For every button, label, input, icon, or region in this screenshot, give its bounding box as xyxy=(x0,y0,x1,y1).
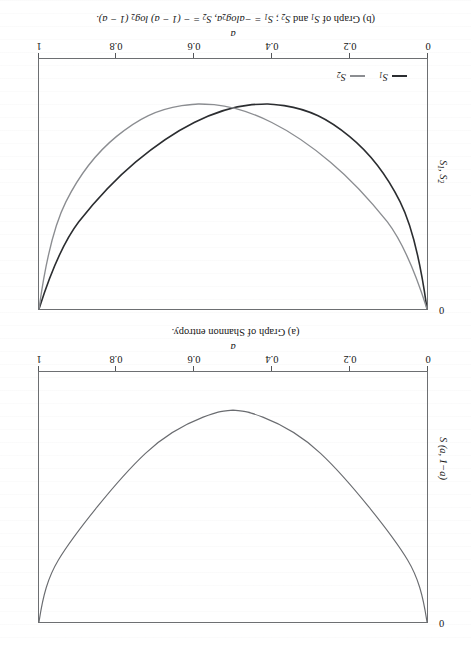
x-tick-a-4 xyxy=(115,366,116,371)
x-tick-b-0 xyxy=(427,53,428,58)
legend-label-s1: S1 xyxy=(379,69,388,83)
entropy-curve-svg xyxy=(39,372,427,622)
x-tick-label-b-4: 0.8 xyxy=(109,40,122,52)
scanned-page: 0 S (a, 1−a) 0 0.2 0.4 0.6 0.8 1 a (a) G… xyxy=(0,0,471,647)
y-axis-title-b: S1, S2 xyxy=(436,160,449,183)
x-tick-label-b-2: 0.4 xyxy=(265,40,278,52)
x-tick-a-1 xyxy=(349,366,350,371)
x-axis-title-b: a xyxy=(38,29,428,40)
x-tick-label-b-0: 0 xyxy=(425,40,430,52)
x-axis-title-a: a xyxy=(38,342,428,353)
x-tick-label-a-1: 0.2 xyxy=(343,353,356,365)
y-zero-label-b: 0 xyxy=(439,305,444,316)
x-tick-label-a-5: 1 xyxy=(36,353,41,365)
x-tick-b-1 xyxy=(349,53,350,58)
figure-s1-s2: S1 S2 0 S1, S2 0 0.2 0.4 0.6 0.8 xyxy=(0,10,471,310)
plot-frame-a xyxy=(38,371,428,623)
curve-s1 xyxy=(39,104,427,309)
x-tick-b-3 xyxy=(193,53,194,58)
x-tick-a-2 xyxy=(271,366,272,371)
x-tick-a-3 xyxy=(193,366,194,371)
figure-caption-a-text: Graph of Shannon entropy. xyxy=(172,327,286,338)
x-tick-label-a-3: 0.6 xyxy=(187,353,200,365)
x-tick-b-2 xyxy=(271,53,272,58)
curve-shannon-entropy xyxy=(39,410,427,622)
plot-frame-b: S1 S2 xyxy=(38,58,428,310)
x-tick-a-5 xyxy=(38,366,39,371)
x-tick-a-0 xyxy=(427,366,428,371)
x-tick-label-a-0: 0 xyxy=(425,353,430,365)
figure-shannon-entropy: 0 S (a, 1−a) 0 0.2 0.4 0.6 0.8 1 a (a) G… xyxy=(0,323,471,623)
x-tick-label-b-3: 0.6 xyxy=(187,40,200,52)
figure-caption-b-text: Graph of S1 and S2 ; S1 = −alog2a, S2 = … xyxy=(96,14,360,25)
x-tick-label-b-5: 1 xyxy=(36,40,41,52)
legend-entry-s2[interactable]: S2 xyxy=(337,69,365,83)
legend-label-s2: S2 xyxy=(337,69,346,83)
figure-caption-a-prefix: (a) xyxy=(288,327,300,338)
figure-caption-b-prefix: (b) xyxy=(363,14,375,25)
y-zero-label-a: 0 xyxy=(439,618,444,629)
legend-entry-s1[interactable]: S1 xyxy=(379,69,407,83)
legend-swatch-s1-icon xyxy=(392,75,407,77)
x-tick-label-a-2: 0.4 xyxy=(265,353,278,365)
s1-s2-curves-svg xyxy=(39,59,427,309)
x-tick-b-5 xyxy=(38,53,39,58)
x-tick-label-b-1: 0.2 xyxy=(343,40,356,52)
curve-s2 xyxy=(39,104,427,309)
figure-caption-b: (b) Graph of S1 and S2 ; S1 = −alog2a, S… xyxy=(0,10,471,26)
legend-swatch-s2-icon xyxy=(350,75,365,77)
y-axis-title-a: S (a, 1−a) xyxy=(438,437,449,480)
figure-caption-a: (a) Graph of Shannon entropy. xyxy=(0,326,471,339)
x-tick-b-4 xyxy=(115,53,116,58)
legend-b: S1 S2 xyxy=(337,69,407,83)
x-tick-label-a-4: 0.8 xyxy=(109,353,122,365)
